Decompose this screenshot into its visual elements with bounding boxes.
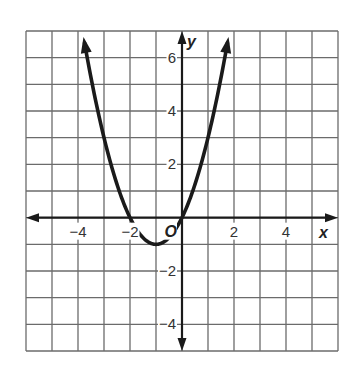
x-axis-label: x: [318, 224, 329, 241]
x-tick-label: −4: [69, 223, 86, 240]
x-axis-left-arrow-icon: [26, 213, 39, 222]
x-tick-label: −2: [121, 223, 138, 240]
x-tick-label: 2: [230, 223, 238, 240]
tick-labels: −4−224−4−2246Oxy: [69, 33, 331, 333]
y-tick-label: 4: [168, 102, 176, 119]
y-tick-label: −4: [159, 315, 176, 332]
curve-left-arrow-icon: [81, 37, 92, 54]
y-axis-label: y: [186, 33, 197, 50]
coordinate-graph: −4−224−4−2246Oxy: [0, 0, 345, 368]
y-tick-label: 6: [168, 49, 176, 66]
origin-label: O: [165, 223, 178, 240]
y-tick-label: 2: [168, 155, 176, 172]
x-tick-label: 4: [282, 223, 290, 240]
y-tick-label: −2: [159, 262, 176, 279]
x-axis-right-arrow-icon: [325, 213, 338, 222]
curve-right-arrow-icon: [220, 37, 231, 54]
y-axis-down-arrow-icon: [178, 338, 187, 351]
y-axis-up-arrow-icon: [178, 31, 187, 44]
